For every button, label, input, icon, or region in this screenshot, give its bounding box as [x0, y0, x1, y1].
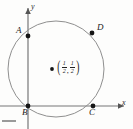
point-A-marker	[26, 34, 31, 39]
coordinate-comma: ,	[67, 67, 70, 75]
center-y-denominator: 2	[70, 68, 75, 74]
geometry-figure: A B C D x y ( 1 2 , 1 2 )	[0, 0, 133, 129]
x-axis-label: x	[122, 99, 126, 107]
center-y-numerator: 1	[70, 60, 75, 66]
open-paren: (	[57, 60, 60, 74]
point-D-marker	[90, 31, 95, 36]
center-y-fraction: 1 2	[70, 60, 75, 74]
page-edge-rule	[2, 120, 16, 122]
circle-center-marker	[50, 67, 54, 71]
point-label-c: C	[89, 108, 95, 117]
close-paren: )	[76, 60, 79, 74]
center-x-numerator: 1	[62, 60, 67, 66]
circle-center-coordinate-label: ( 1 2 , 1 2 )	[56, 60, 80, 74]
point-label-d: D	[97, 23, 104, 32]
y-axis-arrowhead	[25, 8, 31, 14]
point-label-b: B	[22, 108, 28, 117]
point-label-a: A	[16, 26, 22, 35]
y-axis-label: y	[31, 3, 35, 11]
